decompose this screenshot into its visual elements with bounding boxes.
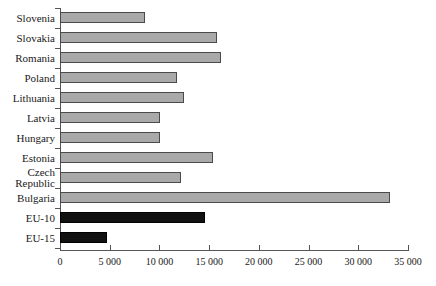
x-tick — [309, 245, 310, 251]
bar — [60, 52, 221, 63]
bar-row — [60, 228, 408, 248]
bar-row — [60, 8, 408, 28]
bar — [60, 112, 160, 123]
bar-row — [60, 48, 408, 68]
bar — [60, 12, 145, 23]
y-axis-label: Slovenia — [17, 13, 56, 24]
x-axis-label: 35 000 — [378, 256, 436, 267]
y-axis-label: Slovakia — [17, 33, 56, 44]
bar — [60, 192, 390, 203]
y-axis-label: Czech Republic — [15, 167, 55, 189]
bar-row — [60, 208, 408, 228]
bar-row — [60, 68, 408, 88]
bar-row — [60, 148, 408, 168]
y-axis-label: Hungary — [17, 133, 56, 144]
x-tick — [209, 245, 210, 251]
x-tick — [110, 245, 111, 251]
bar-row — [60, 128, 408, 148]
bar — [60, 232, 107, 243]
bar-row — [60, 88, 408, 108]
bar — [60, 32, 217, 43]
y-axis-label: Poland — [24, 73, 55, 84]
y-axis-label: Latvia — [27, 113, 55, 124]
bar — [60, 92, 184, 103]
bar-row — [60, 28, 408, 48]
x-tick — [159, 245, 160, 251]
bar — [60, 152, 213, 163]
x-tick — [408, 245, 409, 251]
bar-row — [60, 168, 408, 188]
y-axis-label: Bulgaria — [17, 193, 55, 204]
bar-row — [60, 188, 408, 208]
bar-row — [60, 108, 408, 128]
y-axis-label: EU-15 — [26, 233, 55, 244]
y-axis-label: Estonia — [22, 153, 55, 164]
x-tick — [60, 245, 61, 251]
x-tick — [259, 245, 260, 251]
bar — [60, 72, 177, 83]
bar — [60, 172, 181, 183]
y-axis-label: Romania — [15, 53, 55, 64]
y-axis-label: EU-10 — [26, 213, 55, 224]
bar — [60, 212, 205, 223]
x-tick — [358, 245, 359, 251]
bar — [60, 132, 160, 143]
bars-container — [60, 8, 408, 250]
bar-chart: SloveniaSlovakiaRomaniaPolandLithuaniaLa… — [0, 0, 436, 286]
y-axis-label: Lithuania — [13, 93, 55, 104]
x-axis-line — [60, 250, 409, 251]
